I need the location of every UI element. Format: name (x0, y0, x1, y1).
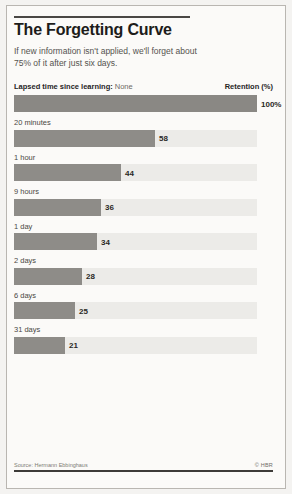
bar-fill (14, 268, 82, 285)
bar-track: 100% (14, 95, 257, 112)
bar-track: 34 (14, 233, 257, 250)
bar-category-label: 2 days (14, 256, 273, 265)
bar-track: 58 (14, 130, 257, 147)
bar-row: 1 day 34 (14, 222, 273, 251)
title-top-rule (14, 16, 190, 18)
bar-value-label: 28 (86, 272, 95, 281)
bar-fill (14, 199, 101, 216)
page-title: The Forgetting Curve (14, 21, 273, 39)
bar-category-label: 9 hours (14, 187, 273, 196)
source-label: Source: Hermann Ebbinghaus (14, 462, 88, 468)
bar-value-label: 36 (105, 203, 114, 212)
column-header-row: Lapsed time since learning:None Retentio… (14, 82, 273, 91)
bar-fill (14, 164, 121, 181)
chart-content: The Forgetting Curve If new information … (14, 12, 273, 360)
bar-fill (14, 233, 97, 250)
bar-value-label: 100% (261, 99, 281, 108)
footer-line: Source: Hermann Ebbinghaus © HBR (14, 462, 273, 468)
bar-row: 20 minutes 58 (14, 118, 273, 147)
bar-value-label: 21 (69, 341, 78, 350)
footer-rule (14, 470, 273, 472)
bar-category-label: 6 days (14, 291, 273, 300)
bar-row: 2 days 28 (14, 256, 273, 285)
bar-category-label: 1 hour (14, 153, 273, 162)
bar-row: 100% (14, 95, 273, 112)
bar-row: 31 days 21 (14, 325, 273, 354)
credit-label: © HBR (255, 462, 273, 468)
bar-fill (14, 337, 65, 354)
lapsed-time-label: Lapsed time since learning: (14, 82, 113, 91)
bar-category-label: 20 minutes (14, 118, 273, 127)
lapsed-time-header: Lapsed time since learning:None (14, 82, 133, 91)
bar-row: 9 hours 36 (14, 187, 273, 216)
bar-value-label: 58 (159, 134, 168, 143)
bar-fill (14, 302, 75, 319)
chart-card: The Forgetting Curve If new information … (6, 5, 286, 489)
bar-track: 44 (14, 164, 257, 181)
bar-fill (14, 95, 257, 112)
chart-footer: Source: Hermann Ebbinghaus © HBR (14, 462, 273, 472)
bar-track: 25 (14, 302, 257, 319)
bar-category-label: 31 days (14, 325, 273, 334)
chart-subtitle: If new information isn't applied, we'll … (14, 46, 214, 69)
page-background: The Forgetting Curve If new information … (0, 0, 292, 494)
bar-value-label: 34 (101, 237, 110, 246)
retention-header: Retention (%) (225, 82, 273, 91)
bar-track: 28 (14, 268, 257, 285)
bar-category-label: 1 day (14, 222, 273, 231)
bar-value-label: 25 (79, 306, 88, 315)
bar-row: 1 hour 44 (14, 153, 273, 182)
bar-value-label: 44 (125, 168, 134, 177)
lapsed-time-value: None (115, 82, 133, 91)
bar-track: 21 (14, 337, 257, 354)
bar-row: 6 days 25 (14, 291, 273, 320)
bar-track: 36 (14, 199, 257, 216)
bar-fill (14, 130, 155, 147)
